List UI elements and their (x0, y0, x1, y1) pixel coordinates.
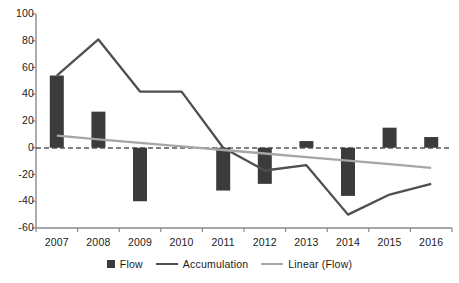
legend-item[interactable]: Accumulation (156, 258, 248, 270)
y-axis-tick-label-text: -60 (4, 222, 34, 233)
x-axis-tick-label: 2009 (118, 232, 162, 250)
x-axis-tick-label: 2011 (201, 232, 245, 250)
y-axis-tick-label-text: 0 (4, 142, 34, 153)
y-axis-tick-label-text: -20 (4, 169, 34, 180)
linear-trend-line-series (57, 136, 431, 168)
x-axis-tick-label-text: 2013 (294, 236, 318, 248)
y-axis-tick-label: 40 (2, 88, 34, 100)
x-axis-tick-label-text: 2014 (336, 236, 360, 248)
y-axis-tick-label-text: 60 (4, 62, 34, 73)
y-axis-tick-label-text: 100 (4, 8, 34, 19)
y-axis-tick-label-text: 20 (4, 115, 34, 126)
flow-bar (424, 137, 438, 148)
x-axis-tick-label: 2007 (35, 232, 79, 250)
y-axis-tick-label: 0 (2, 142, 34, 154)
y-axis-tick-label-text: 80 (4, 35, 34, 46)
flow-bar (383, 128, 397, 148)
legend-item-label: Linear (Flow) (288, 258, 352, 270)
y-axis-tick-label: 20 (2, 115, 34, 127)
flow-bar (341, 148, 355, 196)
x-axis-tick-label-text: 2012 (253, 236, 277, 248)
chart-container: 100806040200-20-40-60 200720082009201020… (0, 0, 459, 283)
x-axis-tick-label: 2010 (160, 232, 204, 250)
legend-item-label: Flow (120, 258, 143, 270)
y-axis-tick-label: 100 (2, 8, 34, 20)
x-axis-tick-label-text: 2016 (419, 236, 443, 248)
legend-item[interactable]: Linear (Flow) (261, 258, 352, 270)
legend-item[interactable]: Flow (107, 258, 143, 270)
legend-line-icon (261, 263, 283, 265)
y-axis-tick-label: -40 (2, 195, 34, 207)
y-axis-tick-label-text: 40 (4, 88, 34, 99)
x-axis-tick-label-text: 2010 (170, 236, 194, 248)
x-axis-tick-label-text: 2008 (86, 236, 110, 248)
flow-bar (216, 148, 230, 191)
flow-bar (91, 112, 105, 148)
y-axis-tick-label: 60 (2, 62, 34, 74)
y-axis-tick-label-text: -40 (4, 195, 34, 206)
x-axis-tick-label-text: 2009 (128, 236, 152, 248)
flow-bar (299, 141, 313, 148)
x-axis-tick-label-text: 2011 (211, 236, 234, 248)
y-axis-tick-label: -60 (2, 222, 34, 234)
x-axis-tick-label: 2013 (284, 232, 328, 250)
flow-bar (133, 148, 147, 202)
x-axis-tick-label: 2012 (243, 232, 287, 250)
x-axis-tick-label: 2008 (76, 232, 120, 250)
x-axis-tick-label-text: 2007 (45, 236, 69, 248)
flow-bars-series (50, 76, 438, 202)
x-axis-tick-label: 2014 (326, 232, 370, 250)
accumulation-line-series (57, 39, 431, 214)
legend-item-label: Accumulation (183, 258, 248, 270)
chart-legend: FlowAccumulationLinear (Flow) (0, 258, 459, 270)
x-axis-tick-label: 2016 (409, 232, 453, 250)
x-axis-tick-label: 2015 (368, 232, 412, 250)
legend-line-icon (156, 263, 178, 265)
legend-square-icon (107, 260, 115, 268)
y-axis-tick-label: -20 (2, 169, 34, 181)
y-axis-tick-label: 80 (2, 35, 34, 47)
x-axis-tick-label-text: 2015 (378, 236, 402, 248)
